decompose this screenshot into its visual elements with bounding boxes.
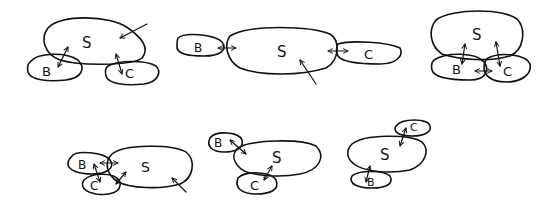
panel-4: B C S bbox=[68, 146, 192, 194]
ellipse-s bbox=[44, 18, 145, 64]
label-c: C bbox=[250, 178, 259, 193]
label-s: S bbox=[141, 159, 150, 175]
label-s: S bbox=[272, 149, 282, 167]
panel-3: S B C bbox=[431, 11, 530, 82]
diagram-canvas: S B C B S C S B C B C S bbox=[0, 0, 557, 208]
label-c: C bbox=[364, 47, 373, 62]
ellipse-c bbox=[83, 174, 121, 194]
label-c: C bbox=[125, 66, 134, 81]
arrow-s-c bbox=[496, 42, 500, 66]
label-b: B bbox=[367, 176, 375, 189]
label-b: B bbox=[452, 62, 461, 77]
label-c: C bbox=[410, 121, 418, 134]
label-c: C bbox=[90, 179, 98, 193]
label-s: S bbox=[82, 34, 92, 52]
label-b: B bbox=[214, 136, 222, 150]
panel-6: C S B bbox=[348, 120, 431, 189]
panel-2: B S C bbox=[177, 28, 401, 85]
label-b: B bbox=[42, 64, 51, 79]
arrow-c-s bbox=[264, 166, 272, 180]
panel-1: S B C bbox=[28, 18, 159, 85]
label-c: C bbox=[503, 64, 512, 79]
panel-5: B S C bbox=[209, 133, 321, 194]
label-s: S bbox=[472, 26, 482, 44]
label-s: S bbox=[277, 43, 287, 61]
label-b: B bbox=[194, 41, 202, 55]
label-b: B bbox=[78, 158, 86, 172]
external-arrow bbox=[300, 60, 316, 84]
label-s: S bbox=[380, 146, 390, 164]
arrow-s-b bbox=[58, 47, 68, 67]
